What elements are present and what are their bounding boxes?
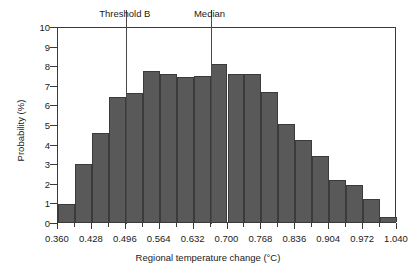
x-axis-minor-tick	[74, 223, 75, 227]
x-axis-minor-tick	[91, 223, 92, 227]
x-axis-minor-tick	[142, 223, 143, 227]
y-axis-tick-label: 3	[45, 159, 50, 170]
x-axis-tick-label: 0.428	[79, 233, 103, 244]
x-axis-tick	[396, 223, 397, 229]
histogram-figure: Probability (%) 012345678910 0.3600.4280…	[0, 0, 416, 278]
x-axis-tick-label: 0.700	[215, 233, 239, 244]
x-axis-minor-tick	[159, 223, 160, 227]
y-axis-tick	[50, 66, 57, 67]
y-axis-tick	[50, 125, 57, 126]
y-axis-tick-label: 2	[45, 178, 50, 189]
y-axis-tick-label: 0	[45, 218, 50, 229]
x-axis-minor-tick	[277, 223, 278, 227]
x-axis-minor-tick	[108, 223, 109, 227]
reference-line	[126, 10, 127, 224]
x-axis-title: Regional temperature change (°C)	[0, 252, 416, 263]
x-axis-tick-label: 0.972	[350, 233, 374, 244]
x-axis-minor-tick	[243, 223, 244, 227]
x-axis-tick-label: 0.360	[45, 233, 69, 244]
x-axis-tick-label: 0.496	[113, 233, 137, 244]
x-axis-minor-tick	[193, 223, 194, 227]
x-axis-minor-tick	[294, 223, 295, 227]
reference-line	[211, 10, 212, 224]
y-axis-tick-label: 7	[45, 80, 50, 91]
y-axis-tick-label: 5	[45, 120, 50, 131]
reference-line-label: Median	[194, 8, 225, 19]
y-axis-tick-label: 4	[45, 139, 50, 150]
y-axis-tick	[50, 203, 57, 204]
y-axis-tick-label: 9	[45, 41, 50, 52]
y-axis-tick-label: 8	[45, 61, 50, 72]
annotation-lines-layer	[58, 28, 395, 222]
y-axis-tick-label: 1	[45, 198, 50, 209]
y-axis-title: Probability (%)	[15, 71, 26, 191]
y-axis-tick	[50, 47, 57, 48]
x-axis-tick-label: 0.768	[249, 233, 273, 244]
y-axis-tick-label: 6	[45, 100, 50, 111]
reference-line-label: Threshold B	[99, 8, 150, 19]
x-axis-minor-tick	[311, 223, 312, 227]
x-axis-minor-tick	[176, 223, 177, 227]
x-axis-tick	[57, 223, 58, 229]
y-axis-tick-label: 10	[39, 22, 50, 33]
x-axis-minor-tick	[328, 223, 329, 227]
y-axis-tick	[50, 223, 57, 224]
y-axis-tick	[50, 164, 57, 165]
x-axis-tick-label: 0.564	[147, 233, 171, 244]
x-axis-minor-tick	[379, 223, 380, 227]
plot-area	[57, 27, 396, 223]
x-axis-tick-label: 0.904	[316, 233, 340, 244]
y-axis-tick	[50, 105, 57, 106]
x-axis-minor-tick	[362, 223, 363, 227]
x-axis-minor-tick	[345, 223, 346, 227]
y-axis-tick	[50, 145, 57, 146]
x-axis-minor-tick	[227, 223, 228, 227]
x-axis-minor-tick	[260, 223, 261, 227]
x-axis-tick-label: 0.836	[282, 233, 306, 244]
y-axis-tick	[50, 184, 57, 185]
y-axis-tick	[50, 86, 57, 87]
x-axis-tick-label: 0.632	[181, 233, 205, 244]
x-axis-tick-label: 1.040	[384, 233, 408, 244]
y-axis-tick	[50, 27, 57, 28]
